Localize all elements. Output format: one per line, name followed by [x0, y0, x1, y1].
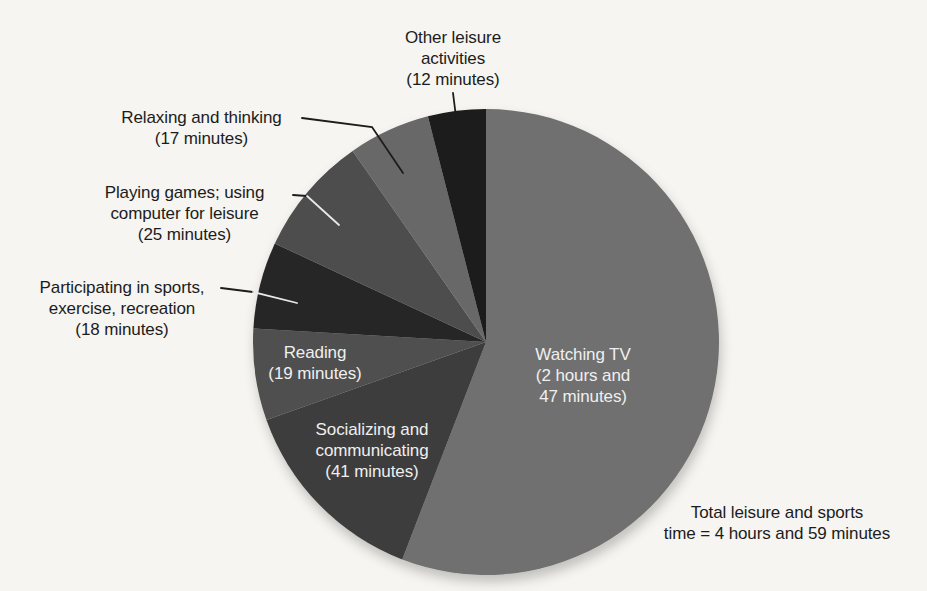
label-line: (17 minutes): [79, 128, 324, 149]
label-line: (18 minutes): [0, 319, 244, 340]
label-line: (19 minutes): [235, 363, 395, 384]
label-line: Participating in sports,: [0, 277, 244, 298]
label-relaxing: Relaxing and thinking (17 minutes): [79, 107, 324, 149]
label-line: (2 hours and: [483, 365, 683, 386]
label-line: (25 minutes): [62, 224, 307, 245]
label-line: time = 4 hours and 59 minutes: [627, 523, 927, 544]
label-line: Playing games; using: [62, 182, 307, 203]
label-line: Reading: [235, 342, 395, 363]
label-other-leisure: Other leisure activities (12 minutes): [353, 27, 553, 90]
label-line: Total leisure and sports: [627, 502, 927, 523]
label-line: exercise, recreation: [0, 298, 244, 319]
figure-leisure-time-pie-chart: Other leisure activities (12 minutes) Re…: [0, 0, 927, 591]
label-line: Socializing and: [272, 419, 472, 440]
total-leisure-note: Total leisure and sports time = 4 hours …: [627, 502, 927, 544]
label-socializing: Socializing and communicating (41 minute…: [272, 419, 472, 482]
label-line: Relaxing and thinking: [79, 107, 324, 128]
label-line: (41 minutes): [272, 461, 472, 482]
label-line: communicating: [272, 440, 472, 461]
label-line: 47 minutes): [483, 386, 683, 407]
label-line: (12 minutes): [353, 69, 553, 90]
label-watching-tv: Watching TV (2 hours and 47 minutes): [483, 344, 683, 407]
label-participating: Participating in sports, exercise, recre…: [0, 277, 244, 340]
label-playing-games: Playing games; using computer for leisur…: [62, 182, 307, 245]
label-reading: Reading (19 minutes): [235, 342, 395, 384]
label-line: Watching TV: [483, 344, 683, 365]
label-line: computer for leisure: [62, 203, 307, 224]
label-line: Other leisure: [353, 27, 553, 48]
label-line: activities: [353, 48, 553, 69]
